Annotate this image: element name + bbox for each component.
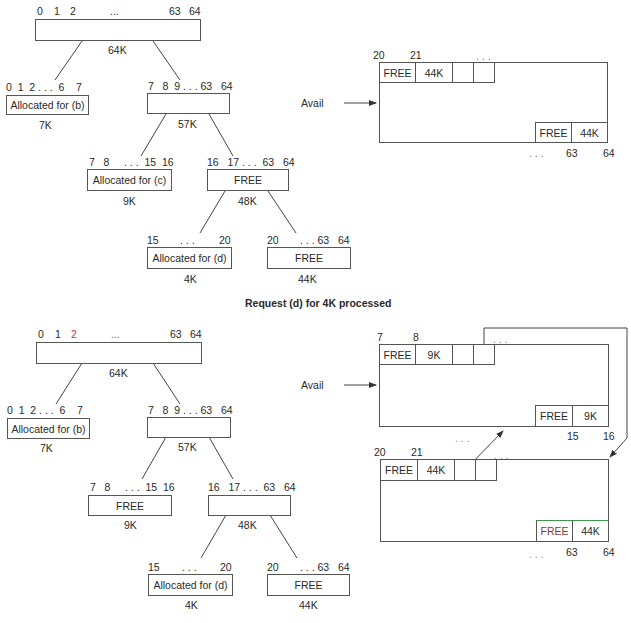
dots-bottom: . . . xyxy=(529,548,544,560)
right-size: 57K xyxy=(178,441,197,453)
block-48k xyxy=(208,495,291,516)
rl-size: 9K xyxy=(124,519,137,531)
addr-64: 64 xyxy=(603,546,615,558)
tail-size-cell: 44K xyxy=(571,122,608,143)
llink-null-cell xyxy=(452,344,474,365)
block-free-44k: FREE xyxy=(267,574,350,596)
tag-cell: FREE xyxy=(379,344,416,365)
avail-label: Avail xyxy=(301,379,324,391)
addr-63: 63 xyxy=(566,147,578,159)
rrr-size: 44K xyxy=(298,273,317,285)
rl-addr: 7 8 . . . 15 16 xyxy=(89,156,174,168)
left-size: 7K xyxy=(40,442,53,454)
rrl-size: 4K xyxy=(185,599,198,611)
root-addr-1: 1 xyxy=(54,5,60,17)
root-block-64k xyxy=(35,19,201,41)
block-allocated-d: Allocated for (d) xyxy=(147,247,232,269)
root-addr-63: 63 xyxy=(170,328,182,340)
block-free-48k: FREE xyxy=(207,169,289,191)
block-allocated-d: Allocated for (d) xyxy=(148,574,233,596)
tail-tag-cell: FREE xyxy=(535,122,572,143)
rrl-addr-right: 20 xyxy=(220,561,232,573)
root-addr-2: 2 xyxy=(71,328,77,340)
rrr-addr-right: . . . 63 64 xyxy=(300,561,350,573)
root-addr-dots: ... xyxy=(111,328,120,340)
tag-cell: FREE xyxy=(380,459,418,481)
tag-cell: FREE xyxy=(379,62,416,83)
tail-size-cell: 44K xyxy=(572,520,609,542)
rr-addr: 16 17 . . . 63 64 xyxy=(207,156,295,168)
rrl-addr-left: 15 xyxy=(148,561,160,573)
right-addr: 7 8 9 . . . 63 64 xyxy=(148,80,233,92)
block-57k xyxy=(147,417,231,438)
addr-20: 20 xyxy=(373,49,385,61)
rrr-addr-left: 20 xyxy=(267,234,279,246)
root-addr-63: 63 xyxy=(169,5,181,17)
block-free-44k: FREE xyxy=(267,247,351,269)
root-addr-2: 2 xyxy=(70,5,76,17)
dots-top: . . . xyxy=(476,50,491,62)
rrl-addr-right: 20 xyxy=(219,234,231,246)
root-size: 64K xyxy=(108,44,127,56)
rl-size: 9K xyxy=(123,195,136,207)
block-allocated-b: Allocated for (b) xyxy=(7,418,90,439)
rlink-null-cell xyxy=(475,459,497,481)
rr-size: 48K xyxy=(238,195,257,207)
rr-size: 48K xyxy=(238,519,257,531)
right-addr: 7 8 9 . . . 63 64 xyxy=(148,404,233,416)
tail-size-cell: 9K xyxy=(572,405,609,427)
tail-tag-cell: FREE xyxy=(536,520,573,542)
right-size: 57K xyxy=(178,118,197,130)
rlink-null-cell xyxy=(473,62,495,83)
block-allocated-c: Allocated for (c) xyxy=(87,169,172,191)
rl-addr: 7 8 . . . 15 16 xyxy=(90,481,175,493)
block-allocated-b: Allocated for (b) xyxy=(6,95,89,115)
rr-addr: 16 17 . . . 63 64 xyxy=(208,481,296,493)
addr-7: 7 xyxy=(377,331,383,343)
left-addr: 0 1 2 . . . 6 7 xyxy=(6,81,82,93)
left-size: 7K xyxy=(39,119,52,131)
dots-bottom: . . . xyxy=(529,147,544,159)
rrl-addr-mid: . . . xyxy=(180,234,195,246)
root-addr-0: 0 xyxy=(38,328,44,340)
rrr-size: 44K xyxy=(299,599,318,611)
addr-20: 20 xyxy=(374,446,386,458)
root-size: 64K xyxy=(109,367,128,379)
root-addr-0: 0 xyxy=(37,5,43,17)
avail-label: Avail xyxy=(301,97,324,109)
tail-tag-cell: FREE xyxy=(535,405,573,427)
size-cell: 44K xyxy=(417,459,455,481)
rlink-pointer-cell xyxy=(473,344,495,365)
llink-null-cell xyxy=(452,62,474,83)
addr-64: 64 xyxy=(603,147,615,159)
size-cell: 9K xyxy=(415,344,453,365)
rrl-size: 4K xyxy=(184,273,197,285)
root-addr-64: 64 xyxy=(189,5,201,17)
rrl-addr-mid: . . . xyxy=(182,561,197,573)
dots-bottom: . . . xyxy=(455,432,470,444)
root-addr-64: 64 xyxy=(190,328,202,340)
rrr-addr-right: . . . 63 64 xyxy=(300,234,350,246)
root-addr-1: 1 xyxy=(55,328,61,340)
size-cell: 44K xyxy=(415,62,453,83)
caption: Request (d) for 4K processed xyxy=(245,297,391,309)
addr-21: 21 xyxy=(411,446,423,458)
root-addr-dots: ... xyxy=(110,5,119,17)
rrr-addr-left: 20 xyxy=(267,561,279,573)
addr-63: 63 xyxy=(566,546,578,558)
block-free-9k: FREE xyxy=(88,495,172,516)
block-57k xyxy=(147,93,230,114)
addr-16: 16 xyxy=(603,430,615,442)
root-block-64k xyxy=(36,342,202,364)
rrl-addr-left: 15 xyxy=(147,234,159,246)
llink-pointer-cell xyxy=(454,459,476,481)
addr-15: 15 xyxy=(567,430,579,442)
addr-8: 8 xyxy=(413,331,419,343)
left-addr: 0 1 2 . . . 6 7 xyxy=(7,404,83,416)
addr-21: 21 xyxy=(410,49,422,61)
